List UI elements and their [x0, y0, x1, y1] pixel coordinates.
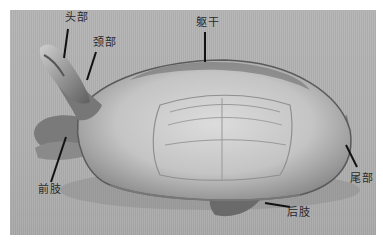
label-hindlimb: 后肢 [287, 207, 310, 219]
label-head: 头部 [65, 12, 88, 24]
label-forelimb: 前肢 [38, 184, 61, 196]
label-tail: 尾部 [350, 173, 373, 185]
turtle-photo [10, 10, 376, 235]
label-trunk: 躯干 [196, 17, 219, 29]
turtle-illustration [10, 10, 376, 235]
label-neck: 颈部 [93, 37, 116, 49]
